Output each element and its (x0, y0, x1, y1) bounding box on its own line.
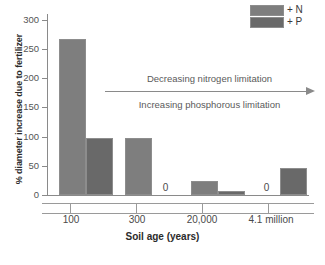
bar-p-100 (86, 138, 113, 195)
category-rail (42, 203, 314, 214)
arrow-shaft (105, 91, 308, 92)
y-tick-label-250: 250 (23, 43, 39, 54)
zero-label-p-300: 0 (152, 182, 179, 193)
legend-item-n: + N (250, 5, 320, 16)
x-tick-label-4-1-million: 4.1 million (236, 214, 306, 225)
y-tick-label-100: 100 (23, 131, 39, 142)
trend-annotation: Decreasing nitrogen limitation Increasin… (103, 72, 316, 111)
decreasing-nitrogen-text: Decreasing nitrogen limitation (103, 72, 316, 85)
bar-p-4-1-million (280, 168, 307, 195)
right-arrow-icon (103, 86, 316, 97)
legend-label-p: + P (287, 16, 302, 28)
y-tick-label-300: 300 (23, 14, 39, 25)
legend: + N + P (250, 5, 320, 31)
bar-n-100 (59, 39, 86, 195)
bar-p-20000 (218, 191, 245, 195)
x-axis-baseline (42, 195, 309, 196)
x-tick-label-100: 100 (42, 214, 100, 225)
category-divider-2 (136, 204, 137, 213)
x-tick-label-20000: 20,000 (172, 214, 232, 225)
legend-label-n: + N (287, 4, 303, 16)
y-tick-100: 100 (42, 137, 47, 138)
bar-chart-figure: % diameter increase due to fertilizer 0 … (0, 0, 325, 265)
y-tick-0: 0 (42, 195, 47, 196)
y-axis-line (47, 14, 48, 195)
increasing-phosphorous-text: Increasing phosphorous limitation (103, 98, 316, 111)
bar-n-20000 (191, 181, 218, 195)
category-divider-1 (70, 204, 71, 213)
category-divider-4 (268, 204, 269, 213)
category-divider-3 (202, 204, 203, 213)
y-tick-label-0: 0 (34, 189, 39, 200)
arrow-head (306, 87, 315, 95)
zero-label-n-4-1-million: 0 (253, 182, 280, 193)
legend-swatch-p-icon (250, 17, 284, 28)
y-tick-label-150: 150 (23, 101, 39, 112)
y-tick-200: 200 (42, 78, 47, 79)
x-axis-title: Soil age (years) (0, 231, 325, 242)
y-tick-50: 50 (42, 166, 47, 167)
y-tick-300: 300 (42, 20, 47, 21)
legend-item-p: + P (250, 17, 320, 28)
y-tick-250: 250 (42, 49, 47, 50)
y-tick-150: 150 (42, 107, 47, 108)
y-tick-label-50: 50 (28, 160, 39, 171)
bar-n-300 (125, 138, 152, 195)
y-tick-label-200: 200 (23, 72, 39, 83)
legend-swatch-n-icon (250, 5, 284, 16)
x-tick-label-300: 300 (108, 214, 166, 225)
